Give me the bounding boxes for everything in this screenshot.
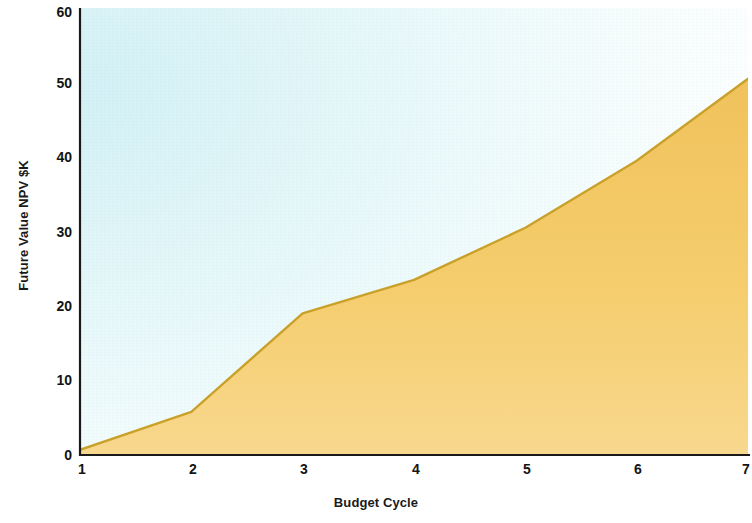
x-axis-tick-labels: 1 2 3 4 5 6 7 (0, 461, 752, 487)
axis-lines (0, 0, 752, 523)
x-axis-title: Budget Cycle (0, 495, 752, 510)
x-tick-label-7: 7 (726, 461, 752, 477)
x-tick-label-2: 2 (173, 461, 213, 477)
x-tick-label-4: 4 (396, 461, 436, 477)
x-tick-label-1: 1 (62, 461, 102, 477)
x-tick-label-3: 3 (284, 461, 324, 477)
area-chart: 0 10 20 30 40 50 60 Future Value NPV $K (0, 0, 752, 523)
x-tick-label-5: 5 (507, 461, 547, 477)
x-tick-label-6: 6 (618, 461, 658, 477)
